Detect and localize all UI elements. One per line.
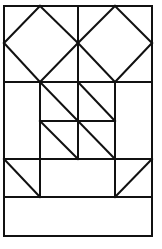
top-diamond-left-4-line: [4, 43, 40, 82]
pattern-lines: [4, 6, 152, 197]
top-diamond-right-2-line: [115, 6, 152, 43]
corner-diag-left-line: [4, 159, 40, 197]
top-diamond-right-4-line: [78, 43, 115, 82]
corner-diag-right-line: [115, 159, 152, 197]
diag-upper-right-line: [78, 82, 115, 121]
top-diamond-left-2-line: [40, 6, 78, 43]
top-diamond-right-3-line: [115, 43, 152, 82]
top-diamond-left-1-line: [4, 6, 40, 43]
diag-lower-left-line: [40, 121, 78, 159]
top-diamond-right-1-line: [78, 6, 115, 43]
diag-upper-left-line: [40, 82, 78, 121]
quilt-pattern-diagram: [0, 0, 162, 249]
diag-lower-right-line: [78, 121, 115, 159]
top-diamond-left-3-line: [40, 43, 78, 82]
